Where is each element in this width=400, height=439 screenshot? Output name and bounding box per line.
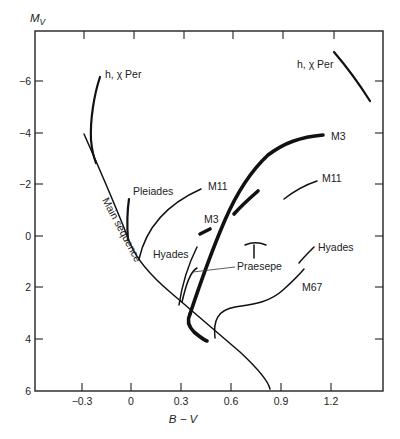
y-tick-label: 6 xyxy=(25,385,31,397)
x-tick-label: 1.2 xyxy=(324,395,339,407)
color-magnitude-diagram: MV B − V −6 −4 −2 0 2 4 6 −0.3 0 0.3 xyxy=(0,0,400,439)
label-m11-right: M11 xyxy=(322,172,342,184)
y-tick-label: −2 xyxy=(19,178,31,190)
hchi-per-right-curve xyxy=(334,52,370,101)
x-axis-top xyxy=(84,31,334,39)
y-tick-label: −6 xyxy=(19,75,31,87)
label-hchi-per-left: h, χ Per xyxy=(105,68,142,80)
m3-subgiant-hook-curve xyxy=(188,314,207,341)
hchi-per-left-curve xyxy=(91,77,100,163)
label-hchi-per-right: h, χ Per xyxy=(297,58,334,70)
label-hyades-left: Hyades xyxy=(153,248,189,260)
x-axis-title: B − V xyxy=(169,413,199,425)
hyades-giants-curve xyxy=(299,247,314,263)
y-axis-right xyxy=(375,81,383,339)
x-axis-bottom: −0.3 0 0.3 0.6 0.9 1.2 xyxy=(72,383,339,407)
label-m3-right: M3 xyxy=(331,130,346,142)
label-hyades-right: Hyades xyxy=(318,241,354,253)
m11-giants-curve xyxy=(284,181,317,199)
y-tick-label: −4 xyxy=(19,127,31,139)
plot-frame xyxy=(35,31,383,391)
praesepe-giants-curve xyxy=(245,243,266,245)
y-tick-label: 2 xyxy=(25,281,31,293)
label-main-sequence: Main sequence xyxy=(100,195,144,264)
praesepe-leader-line xyxy=(193,267,235,272)
x-tick-label: 0.9 xyxy=(274,395,289,407)
x-tick-label: −0.3 xyxy=(72,395,93,407)
y-axis-left: −6 −4 −2 0 2 4 6 xyxy=(19,75,43,397)
label-praesepe: Praesepe xyxy=(237,260,282,272)
x-tick-label: 0 xyxy=(128,395,134,407)
x-tick-label: 0.6 xyxy=(224,395,239,407)
x-tick-label: 0.3 xyxy=(174,395,189,407)
y-tick-label: 0 xyxy=(25,230,31,242)
y-axis-title: MV xyxy=(30,12,47,27)
label-m3-center: M3 xyxy=(204,213,219,225)
m67-curve xyxy=(215,269,304,338)
m3-hb-blob xyxy=(200,229,210,234)
label-pleiades: Pleiades xyxy=(133,185,173,197)
y-tick-label: 4 xyxy=(25,333,31,345)
label-m11-left: M11 xyxy=(208,180,228,192)
label-m67: M67 xyxy=(302,281,323,293)
